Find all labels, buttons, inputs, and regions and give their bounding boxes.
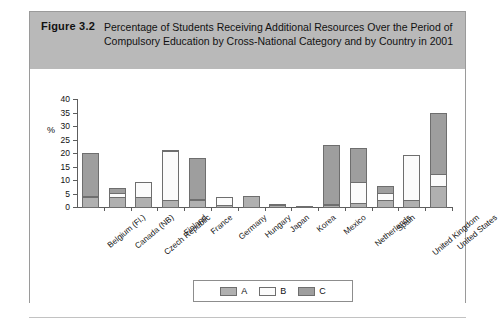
footer-divider (29, 317, 466, 318)
y-axis-tick (73, 153, 77, 154)
bar-segment-a (403, 200, 420, 208)
bar-segment-c (430, 113, 447, 175)
x-axis-category-label: Germany (237, 213, 269, 242)
y-axis-tick (73, 167, 77, 168)
bar-segment-c (323, 145, 340, 206)
y-axis-tick-label: 10 (61, 175, 70, 185)
bar-segment-c (350, 148, 367, 183)
x-axis-tick (238, 207, 239, 211)
x-axis-tick (398, 207, 399, 211)
y-axis-tick-label: 0 (65, 202, 70, 212)
bar-stack (430, 113, 447, 207)
x-axis-tick (425, 207, 426, 211)
bar-stack (135, 182, 152, 207)
bar-segment-a (269, 205, 286, 208)
bar-segment-b (162, 151, 179, 201)
x-axis-category-label: France (208, 213, 233, 236)
legend-label: A (241, 286, 247, 296)
x-axis-tick (104, 207, 105, 211)
y-axis-tick-label: 40 (61, 94, 70, 104)
bar-segment-a (109, 197, 126, 208)
x-axis-tick (184, 207, 185, 211)
bar-stack (269, 204, 286, 207)
bar-stack (377, 186, 394, 207)
bar-segment-a (323, 205, 340, 208)
bar-segment-a (135, 197, 152, 208)
bar-segment-a (216, 205, 233, 208)
bar-segment-b (135, 182, 152, 198)
x-axis-tick (211, 207, 212, 211)
x-axis-category-label: Korea (315, 213, 338, 234)
figure-number: Figure 3.2 (41, 20, 95, 32)
x-axis-tick (345, 207, 346, 211)
bar-segment-a (243, 196, 260, 208)
x-axis-category-label: Japan (288, 213, 311, 234)
y-axis-tick (73, 194, 77, 195)
y-axis-unit-label: % (47, 125, 55, 135)
y-axis-tick (73, 99, 77, 100)
y-axis-tick-label: 15 (61, 162, 70, 172)
bar-segment-a (377, 200, 394, 208)
figure-container: Figure 3.2 Percentage of Students Receiv… (29, 11, 466, 303)
bar-segment-a (430, 186, 447, 208)
chart-legend: ABC (193, 280, 353, 302)
y-axis-tick (73, 126, 77, 127)
bar-stack (323, 145, 340, 207)
bar-segment-c (82, 153, 99, 196)
bar-stack (216, 197, 233, 207)
bar-chart: 0510152025303540 Belgium (Fl.)Canada (NB… (77, 99, 452, 207)
x-axis-tick (265, 207, 266, 211)
y-axis-tick-label: 20 (61, 148, 70, 158)
legend-label: B (280, 286, 286, 296)
legend-swatch-a (220, 287, 237, 296)
x-axis-tick (291, 207, 292, 211)
legend-swatch-c (298, 287, 315, 296)
bar-stack (296, 206, 313, 207)
bar-segment-a (162, 200, 179, 208)
bar-stack (82, 153, 99, 207)
bar-stack (350, 148, 367, 207)
legend-label: C (319, 286, 326, 296)
y-axis-tick (73, 180, 77, 181)
plot-area: % 0510152025303540 Belgium (Fl.)Canada (… (30, 69, 465, 303)
x-axis-tick (157, 207, 158, 211)
bar-segment-b (430, 174, 447, 188)
bar-stack (109, 188, 126, 207)
bar-segment-a (82, 197, 99, 208)
y-axis-tick-label: 30 (61, 121, 70, 131)
y-axis-tick (73, 207, 77, 208)
bar-segment-a (296, 206, 313, 208)
legend-item: C (298, 286, 326, 296)
bar-segment-a (350, 203, 367, 208)
bar-segment-b (403, 155, 420, 201)
x-axis-tick (452, 207, 453, 211)
x-axis-tick (318, 207, 319, 211)
legend-item: A (220, 286, 247, 296)
y-axis-tick-label: 25 (61, 135, 70, 145)
y-axis-tick (73, 140, 77, 141)
bar-segment-a (189, 200, 206, 208)
bar-stack (162, 150, 179, 207)
bar-stack (243, 196, 260, 207)
y-axis-tick (73, 113, 77, 114)
x-axis-tick (131, 207, 132, 211)
y-axis-tick-label: 35 (61, 108, 70, 118)
bar-stack (403, 155, 420, 207)
y-axis-line (77, 99, 78, 207)
legend-item: B (259, 286, 286, 296)
x-axis-category-label: Mexico (343, 213, 369, 237)
figure-header: Figure 3.2 Percentage of Students Receiv… (30, 12, 465, 69)
figure-title: Percentage of Students Receiving Additio… (104, 20, 454, 49)
y-axis-tick-label: 5 (65, 189, 70, 199)
x-axis-category-label: Spain (395, 213, 417, 233)
bar-segment-c (189, 158, 206, 200)
legend-swatch-b (259, 287, 276, 296)
x-axis-tick (372, 207, 373, 211)
bar-stack (189, 158, 206, 207)
bar-segment-b (350, 182, 367, 204)
